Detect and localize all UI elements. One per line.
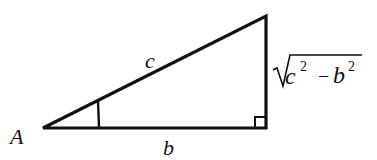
angle-marker — [98, 101, 99, 127]
exponent-2: 2 — [348, 59, 355, 74]
adjacent-label-b: b — [163, 135, 174, 160]
minus-sign: − — [318, 65, 329, 87]
opposite-label-sqrt: c 2 − b 2 — [273, 55, 362, 89]
radicand-c: c — [285, 63, 296, 89]
vertex-label-a: A — [8, 124, 24, 149]
exponent-1: 2 — [300, 59, 307, 74]
right-angle-marker — [255, 117, 266, 128]
radicand-b: b — [333, 62, 345, 88]
hypotenuse-label-c: c — [145, 48, 155, 73]
triangle-diagram: A c b c 2 − b 2 — [0, 0, 377, 160]
